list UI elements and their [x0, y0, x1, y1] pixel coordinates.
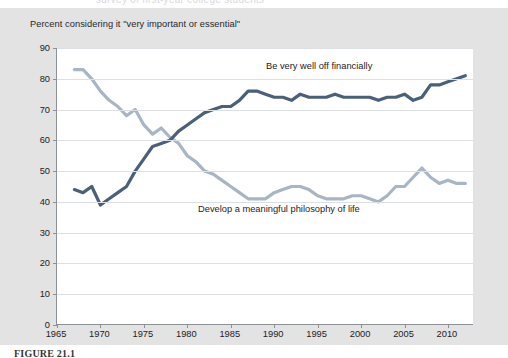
y-tick-label: 20 [10, 258, 50, 268]
y-tick-mark [53, 110, 57, 111]
y-tick-label: 10 [10, 289, 50, 299]
x-tick-mark [405, 324, 406, 328]
series-lines [57, 48, 474, 325]
gridline [57, 110, 473, 111]
y-tick-label: 80 [10, 74, 50, 84]
y-tick-mark [53, 202, 57, 203]
gridline [57, 294, 473, 295]
y-tick-mark [53, 140, 57, 141]
x-tick-label: 1995 [294, 329, 340, 339]
y-tick-mark [53, 294, 57, 295]
series-line [74, 70, 465, 202]
gridline [57, 263, 473, 264]
x-tick-mark [57, 324, 58, 328]
y-tick-mark [53, 233, 57, 234]
y-tick-label: 30 [10, 228, 50, 238]
gridline [57, 233, 473, 234]
y-tick-mark [53, 48, 57, 49]
chart-axis-title: Percent considering it "very important o… [30, 19, 240, 29]
y-tick-mark [53, 79, 57, 80]
x-tick-mark [231, 324, 232, 328]
x-tick-mark [187, 324, 188, 328]
x-tick-label: 1985 [207, 329, 253, 339]
x-tick-label: 1980 [163, 329, 209, 339]
cutoff-header-text: survey of first-year college students [96, 0, 426, 6]
x-tick-label: 2005 [381, 329, 427, 339]
x-tick-label: 1990 [250, 329, 296, 339]
y-tick-label: 70 [10, 105, 50, 115]
x-tick-mark [448, 324, 449, 328]
y-tick-label: 60 [10, 135, 50, 145]
x-tick-mark [274, 324, 275, 328]
y-tick-mark [53, 263, 57, 264]
gridline [57, 202, 473, 203]
figure-page: survey of first-year college students Pe… [0, 0, 508, 358]
y-tick-label: 90 [10, 43, 50, 53]
plot-area [56, 48, 473, 325]
gridline [57, 79, 473, 80]
x-tick-mark [100, 324, 101, 328]
x-tick-label: 1975 [120, 329, 166, 339]
series-label-philosophy: Develop a meaningful philosophy of life [198, 204, 360, 214]
x-tick-label: 2010 [424, 329, 470, 339]
gridline [57, 140, 473, 141]
figure-caption: FIGURE 21.1 [14, 348, 75, 358]
x-tick-mark [361, 324, 362, 328]
x-axis-labels: 1965197019751980198519901995200020052010 [56, 329, 473, 343]
x-tick-mark [144, 324, 145, 328]
y-tick-label: 40 [10, 197, 50, 207]
gridline [57, 171, 473, 172]
x-tick-label: 2000 [337, 329, 383, 339]
y-axis-labels: 0102030405060708090 [8, 48, 50, 325]
y-tick-label: 50 [10, 166, 50, 176]
x-tick-mark [318, 324, 319, 328]
series-label-financially: Be very well off financially [266, 61, 372, 71]
x-tick-label: 1970 [76, 329, 122, 339]
x-tick-label: 1965 [33, 329, 79, 339]
y-tick-mark [53, 171, 57, 172]
gridline [57, 48, 473, 49]
